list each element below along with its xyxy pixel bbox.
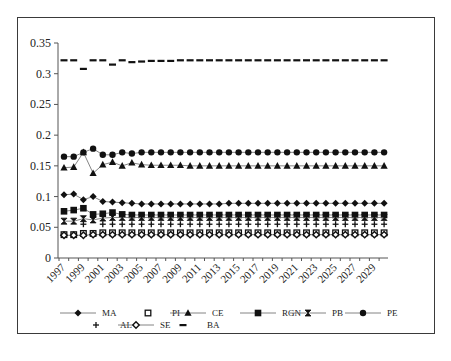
series-ba — [61, 59, 388, 70]
series-pe — [61, 145, 388, 159]
axes: 00.050.10.150.20.250.30.3519971999200120… — [30, 36, 388, 285]
legend-label: BA — [207, 320, 220, 330]
x-tick-label: 2015 — [218, 261, 242, 285]
x-tick-label: 2007 — [140, 261, 164, 285]
x-tick-label: 2001 — [82, 261, 106, 285]
legend-label: MA — [102, 308, 117, 318]
y-tick-label: 0.1 — [36, 190, 51, 204]
legend: MAPICERGNPBPEALSEBA — [60, 308, 398, 330]
series-rgn — [61, 205, 388, 218]
y-tick-label: 0 — [45, 251, 51, 265]
x-tick-label: 2029 — [354, 261, 378, 285]
y-tick-label: 0.15 — [30, 159, 51, 173]
line-chart: 00.050.10.150.20.250.30.3519971999200120… — [0, 0, 451, 361]
legend-item-ma: MA — [60, 308, 117, 318]
series-ma — [61, 191, 388, 208]
x-tick-label: 2005 — [121, 261, 145, 285]
x-tick-label: 2019 — [257, 261, 281, 285]
x-tick-label: 2013 — [199, 261, 223, 285]
x-tick-label: 2017 — [237, 261, 261, 285]
legend-label: PB — [332, 308, 343, 318]
y-tick-label: 0.35 — [30, 36, 51, 50]
x-tick-label: 2023 — [296, 261, 320, 285]
x-tick-label: 2009 — [160, 261, 184, 285]
x-tick-label: 2027 — [334, 261, 358, 285]
x-tick-label: 2003 — [102, 261, 126, 285]
y-tick-label: 0.3 — [36, 67, 51, 81]
x-tick-label: 2025 — [315, 261, 339, 285]
x-tick-label: 2021 — [276, 261, 300, 285]
y-tick-label: 0.05 — [30, 220, 51, 234]
y-tick-label: 0.2 — [36, 128, 51, 142]
series-layer — [60, 59, 387, 238]
legend-item-ba: BA — [180, 320, 221, 330]
legend-label: PE — [387, 308, 398, 318]
x-tick-label: 2011 — [179, 261, 203, 285]
legend-label: SE — [160, 320, 171, 330]
legend-label: CE — [212, 308, 224, 318]
x-tick-label: 1999 — [63, 261, 87, 285]
legend-item-pe: PE — [345, 308, 398, 318]
series-al — [80, 221, 387, 227]
y-tick-label: 0.25 — [30, 97, 51, 111]
